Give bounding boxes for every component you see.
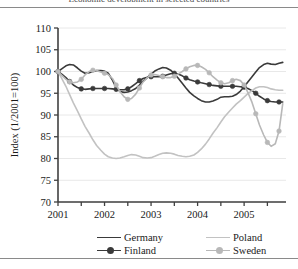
svg-text:2002: 2002 [94,209,115,220]
clipped-header-text: Economic development in selected countri… [0,0,298,2]
svg-text:80: 80 [41,153,52,164]
svg-text:90: 90 [41,110,52,121]
svg-text:2005: 2005 [234,209,255,220]
legend-item-sweden: Sweden [205,244,266,257]
legend-column-left: Germany Finland [96,231,163,257]
svg-text:95: 95 [41,88,52,99]
legend-label-sweden: Sweden [233,244,266,257]
y-axis-title: Index (1/2001=100) [9,72,21,157]
gridlines-group [58,28,286,202]
svg-text:105: 105 [35,44,51,55]
x-tick-labels: 20012002200320042005 [48,209,255,220]
y-axis [54,28,58,202]
legend-swatch-finland [96,245,122,257]
svg-text:85: 85 [41,131,52,142]
line-chart-plot: 707580859095100105110 200120022003200420… [0,12,298,231]
x-axis [58,202,286,206]
chart-legend: Germany Finland Poland Sweden [0,231,298,257]
legend-item-poland: Poland [205,231,266,244]
legend-item-germany: Germany [96,231,163,244]
header-divider-top [0,7,298,8]
legend-item-finland: Finland [96,244,163,257]
svg-text:110: 110 [36,23,51,34]
legend-swatch-sweden [205,245,231,257]
svg-text:2001: 2001 [48,209,69,220]
svg-text:Index (1/2001=100): Index (1/2001=100) [9,72,21,157]
legend-swatch-germany [96,232,122,244]
legend-label-finland: Finland [124,244,156,257]
svg-text:2003: 2003 [141,209,162,220]
legend-label-poland: Poland [233,231,262,244]
series-group [56,62,283,158]
footer-divider-bottom [0,258,298,259]
svg-text:100: 100 [35,66,51,77]
legend-label-germany: Germany [124,231,163,244]
svg-text:75: 75 [41,175,52,186]
svg-text:70: 70 [41,197,52,208]
svg-text:2004: 2004 [187,209,209,220]
chart-figure: Economic development in selected countri… [0,0,298,269]
y-tick-labels: 707580859095100105110 [35,23,51,208]
legend-column-right: Poland Sweden [205,231,266,257]
legend-swatch-poland [205,232,231,244]
